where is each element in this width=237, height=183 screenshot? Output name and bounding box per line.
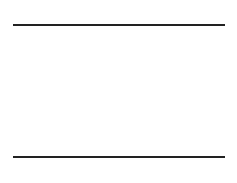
top-axis-line <box>13 24 225 26</box>
bottom-axis-line <box>13 156 225 158</box>
